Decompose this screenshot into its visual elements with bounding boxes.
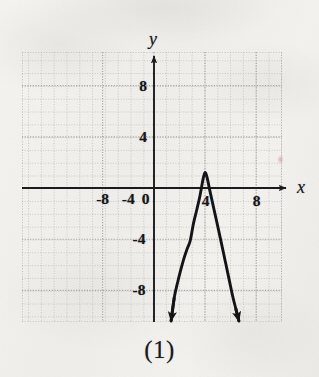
y-tick-label-4: 4 [139, 129, 147, 145]
x-tick-label-minus4: -4 [122, 191, 135, 207]
y-axis-label: y [149, 30, 157, 48]
y-tick-label-8: 8 [139, 78, 147, 94]
y-tick-label-minus4: -4 [133, 231, 146, 247]
graph-figure: -8 -4 0 4 8 8 4 -4 -8 y x [0, 0, 319, 340]
x-tick-label-minus8: -8 [96, 191, 109, 207]
x-tick-label-4: 4 [202, 193, 210, 209]
figure-caption: (1) [0, 336, 319, 364]
y-tick-label-minus8: -8 [133, 283, 146, 299]
minor-gridlines [22, 52, 282, 322]
x-tick-label-8: 8 [253, 193, 261, 209]
curve-arrow-left [171, 298, 174, 322]
x-axis-label: x [297, 178, 305, 196]
coordinate-plane-plot [0, 0, 319, 340]
axes [22, 56, 286, 322]
x-tick-label-zero: 0 [142, 191, 150, 207]
curve-arrow-right [236, 308, 239, 321]
